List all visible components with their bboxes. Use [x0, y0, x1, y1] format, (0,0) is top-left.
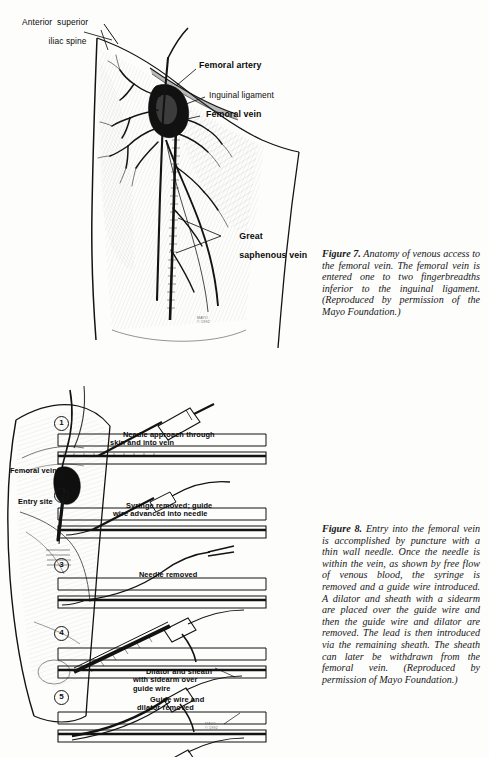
label-femoral-vein-figure-8: Femoral vein	[10, 467, 57, 476]
figure-7-caption-lead: Figure 7.	[322, 248, 361, 259]
figure-7-illustration: Anterior superior iliac spine Femoral ar…	[0, 0, 315, 350]
label-anterior-superior-iliac-spine: Anterior superior iliac spine	[8, 8, 88, 56]
label-femoral-artery: Femoral artery	[199, 61, 262, 71]
step-number-5: 5	[54, 690, 69, 705]
step-label-2: Syringe removed; guidewire advanced into…	[113, 493, 212, 527]
step-number-2: 2	[54, 488, 69, 503]
figure-7-caption: Figure 7. Anatomy of venous access to th…	[322, 248, 480, 318]
artist-signature-figure-7: MAYO © 1992	[197, 316, 210, 324]
label-femoral-vein: Femoral vein	[206, 110, 261, 120]
document-page: Anterior superior iliac spine Femoral ar…	[0, 0, 489, 757]
step-label-1: Needle approach throughskin and into vei…	[110, 422, 215, 456]
figure-8-caption-lead: Figure 8.	[322, 523, 362, 534]
figure-8-illustration: Femoral vein Entry site 1 2 3 4 5 6 Need…	[0, 372, 315, 747]
step-number-1: 1	[54, 416, 69, 431]
label-inguinal-ligament: Inguinal ligament	[209, 91, 274, 101]
step-label-3: Needle removed	[126, 562, 197, 588]
step-number-3: 3	[54, 558, 69, 573]
step-number-4: 4	[54, 626, 69, 641]
figure-8-caption: Figure 8. Entry into the femoral vein is…	[322, 523, 480, 685]
label-entry-site: Entry site	[18, 498, 53, 507]
artist-signature-figure-8: MAYO © 1992	[205, 722, 218, 730]
figure-8-caption-body: Entry into the femoral vein is accomplis…	[322, 523, 480, 685]
step-label-5: Guide wire anddilator removed	[137, 687, 204, 721]
label-great-saphenous-vein: Great saphenous vein	[224, 222, 307, 270]
